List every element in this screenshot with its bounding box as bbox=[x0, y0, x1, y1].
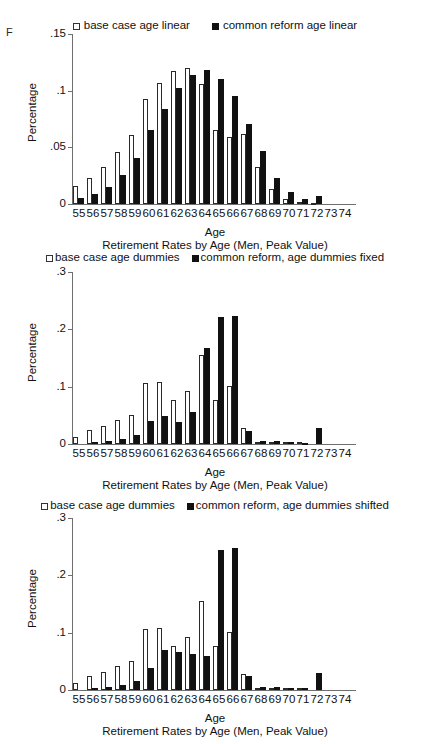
bar-common-reform-age-61 bbox=[162, 416, 168, 444]
bar-common-reform-age-69 bbox=[274, 687, 280, 690]
bar-common-reform-age-65 bbox=[218, 79, 224, 204]
bar-common-reform-age-57 bbox=[106, 441, 112, 444]
x-axis-line bbox=[72, 690, 356, 691]
y-axis-tick-label: .1 bbox=[30, 380, 66, 392]
legend-label: base case age linear bbox=[84, 20, 190, 32]
y-axis-tick-label: 0 bbox=[30, 197, 66, 209]
y-axis-tick-label: 0 bbox=[30, 683, 66, 695]
y-axis-tick-label: .1 bbox=[30, 626, 66, 638]
bar-base-case-age-55 bbox=[73, 683, 79, 690]
bar-common-reform-age-62 bbox=[176, 88, 182, 204]
chart-3-xlabel: Age bbox=[0, 712, 430, 724]
bar-common-reform-age-63 bbox=[190, 654, 196, 690]
legend-label: common reform, age dummies shifted bbox=[196, 500, 389, 512]
x-axis-tick-label-74: 74 bbox=[336, 207, 354, 219]
bar-common-reform-age-63 bbox=[190, 75, 196, 204]
legend-swatch-solid-icon bbox=[212, 23, 219, 30]
bar-common-reform-age-55 bbox=[78, 198, 84, 204]
bar-common-reform-age-61 bbox=[162, 650, 168, 690]
chart-age-linear: base case age linear common reform age l… bbox=[0, 18, 430, 250]
y-axis-tick-label: 0 bbox=[30, 437, 66, 449]
bar-common-reform-age-71 bbox=[302, 199, 308, 204]
bar-common-reform-age-69 bbox=[274, 178, 280, 204]
bar-common-reform-age-60 bbox=[148, 130, 154, 204]
legend-label: base case age dummies bbox=[55, 252, 180, 264]
x-axis-tick-label-74: 74 bbox=[336, 447, 354, 459]
bar-common-reform-age-70 bbox=[288, 442, 294, 444]
legend-label: common reform age linear bbox=[223, 20, 357, 32]
bar-common-reform-age-62 bbox=[176, 652, 182, 690]
bar-common-reform-age-65 bbox=[218, 550, 224, 690]
legend-item-base-case: base case age linear bbox=[73, 20, 190, 32]
bar-common-reform-age-58 bbox=[120, 175, 126, 204]
legend-label: base case age dummies bbox=[50, 500, 175, 512]
y-axis-tick-label: .2 bbox=[30, 322, 66, 334]
legend-swatch-open-icon bbox=[46, 255, 53, 262]
bar-common-reform-age-68 bbox=[260, 687, 266, 690]
bar-common-reform-age-68 bbox=[260, 151, 266, 204]
legend-swatch-open-icon bbox=[73, 23, 80, 30]
legend-item-base-case: base case age dummies bbox=[46, 252, 180, 264]
bar-common-reform-age-64 bbox=[204, 70, 210, 204]
bar-common-reform-age-66 bbox=[232, 548, 238, 690]
bar-common-reform-age-57 bbox=[106, 687, 112, 690]
bar-common-reform-age-71 bbox=[302, 688, 308, 690]
bar-common-reform-age-66 bbox=[232, 96, 238, 204]
y-axis-line bbox=[72, 272, 73, 444]
legend-swatch-open-icon bbox=[41, 503, 48, 510]
y-axis-tick-label: .05 bbox=[30, 140, 66, 152]
bar-common-reform-age-56 bbox=[92, 688, 98, 690]
chart-age-dummies-shifted: base case age dummies common reform, age… bbox=[0, 498, 430, 744]
bar-common-reform-age-58 bbox=[120, 685, 126, 690]
legend-item-common-reform: common reform age linear bbox=[212, 20, 357, 32]
y-axis-line bbox=[72, 518, 73, 690]
legend-item-common-reform: common reform, age dummies fixed bbox=[192, 252, 384, 264]
bar-common-reform-age-69 bbox=[274, 441, 280, 444]
bar-common-reform-age-67 bbox=[246, 676, 252, 690]
bar-common-reform-age-72 bbox=[316, 196, 322, 204]
chart-2-xlabel: Age bbox=[0, 466, 430, 478]
y-axis-tick-label: .1 bbox=[30, 84, 66, 96]
bar-common-reform-age-70 bbox=[288, 688, 294, 690]
chart-2-subtitle: Retirement Rates by Age (Men, Peak Value… bbox=[0, 479, 430, 491]
legend-label: common reform, age dummies fixed bbox=[201, 252, 384, 264]
bar-common-reform-age-60 bbox=[148, 668, 154, 690]
legend-item-common-reform: common reform, age dummies shifted bbox=[187, 500, 389, 512]
bar-common-reform-age-56 bbox=[92, 194, 98, 204]
figure-page: F base case age linear common reform age… bbox=[0, 0, 430, 744]
bar-common-reform-age-66 bbox=[232, 316, 238, 444]
chart-age-dummies-fixed: base case age dummies common reform, age… bbox=[0, 250, 430, 498]
bar-common-reform-age-56 bbox=[92, 442, 98, 444]
bar-common-reform-age-70 bbox=[288, 192, 294, 204]
bar-common-reform-age-59 bbox=[134, 681, 140, 690]
bar-common-reform-age-62 bbox=[176, 422, 182, 444]
x-axis-tick-label-74: 74 bbox=[336, 693, 354, 705]
bar-base-case-age-55 bbox=[73, 437, 79, 444]
bar-common-reform-age-57 bbox=[106, 187, 112, 204]
bar-common-reform-age-58 bbox=[120, 439, 126, 444]
bar-common-reform-age-60 bbox=[148, 421, 154, 444]
bar-common-reform-age-72 bbox=[316, 428, 322, 444]
bar-common-reform-age-71 bbox=[302, 443, 308, 445]
bar-common-reform-age-61 bbox=[162, 109, 168, 204]
bar-common-reform-age-59 bbox=[134, 435, 140, 444]
legend-swatch-solid-icon bbox=[187, 503, 194, 510]
bar-common-reform-age-63 bbox=[190, 412, 196, 444]
y-axis-tick-label: .3 bbox=[30, 265, 66, 277]
legend-swatch-solid-icon bbox=[192, 255, 199, 262]
chart-2-legend: base case age dummies common reform, age… bbox=[0, 250, 430, 266]
bar-common-reform-age-72 bbox=[316, 673, 322, 690]
y-axis-tick-label: .15 bbox=[30, 27, 66, 39]
bar-common-reform-age-67 bbox=[246, 431, 252, 444]
bar-common-reform-age-67 bbox=[246, 124, 252, 204]
y-axis-tick-label: .3 bbox=[30, 511, 66, 523]
x-axis-line bbox=[72, 444, 356, 445]
chart-1-xlabel: Age bbox=[0, 226, 430, 238]
bar-common-reform-age-68 bbox=[260, 441, 266, 444]
y-axis-line bbox=[72, 34, 73, 204]
bar-common-reform-age-64 bbox=[204, 656, 210, 690]
chart-3-subtitle: Retirement Rates by Age (Men, Peak Value… bbox=[0, 725, 430, 737]
bar-common-reform-age-65 bbox=[218, 317, 224, 444]
bar-common-reform-age-64 bbox=[204, 348, 210, 444]
bar-common-reform-age-59 bbox=[134, 158, 140, 204]
